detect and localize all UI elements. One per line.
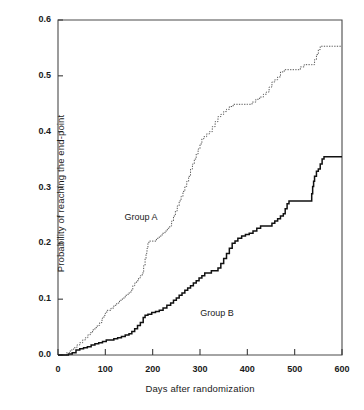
- x-axis-tick-label: 200: [133, 364, 173, 374]
- y-axis-tick-label: 0.3: [25, 182, 51, 192]
- y-axis-tick-label: 0.4: [25, 126, 51, 136]
- y-axis-tick-label: 0.6: [25, 14, 51, 24]
- chart-figure: Probability of reaching the end-point Da…: [0, 0, 364, 410]
- y-axis-tick-label: 0.0: [25, 349, 51, 359]
- y-axis-tick-label: 0.5: [25, 70, 51, 80]
- y-axis-tick-label: 0.1: [25, 293, 51, 303]
- x-axis-tick-label: 100: [85, 364, 125, 374]
- x-axis-tick-label: 500: [275, 364, 315, 374]
- x-axis-label: Days after randomization: [58, 383, 342, 394]
- x-axis-tick-label: 600: [322, 364, 362, 374]
- x-axis-tick-label: 300: [180, 364, 220, 374]
- y-axis-tick-label: 0.2: [25, 237, 51, 247]
- plot-frame: [58, 20, 342, 355]
- series-annotation-group-a: Group A: [125, 212, 158, 222]
- x-axis-tick-label: 0: [38, 364, 78, 374]
- series-line-group-b: [58, 157, 342, 355]
- y-axis-label: Probability of reaching the end-point: [55, 44, 66, 344]
- series-annotation-group-b: Group B: [200, 308, 234, 318]
- x-axis-tick-label: 400: [227, 364, 267, 374]
